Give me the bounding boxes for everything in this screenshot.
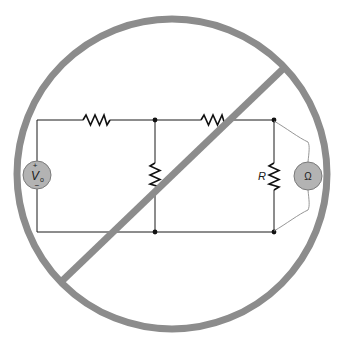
source-minus-sign: − — [35, 181, 40, 190]
ohmmeter-lead-bottom — [274, 190, 309, 231]
prohibition-slash — [62, 67, 285, 281]
prohibition-sign — [17, 19, 327, 329]
resistor-r-measured — [269, 163, 279, 190]
circuit-wires — [37, 120, 274, 232]
source-subscript: o — [40, 176, 44, 183]
ohmmeter-lead-top — [274, 121, 309, 162]
ohmmeter: Ω — [294, 162, 322, 190]
circuit-diagram: R + V o − Ω — [0, 0, 343, 339]
resistor-r1 — [83, 115, 110, 125]
voltage-source: + V o − — [23, 161, 51, 190]
resistor-label: R — [258, 170, 266, 182]
node-bottom-middle — [153, 230, 158, 235]
node-top-middle — [153, 118, 158, 123]
ohm-symbol: Ω — [304, 171, 312, 182]
